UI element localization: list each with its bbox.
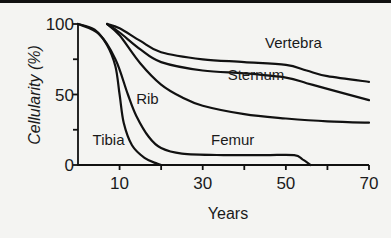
label-vertebra: Vertebra xyxy=(265,34,322,51)
y-tick-label: 0 xyxy=(65,156,74,175)
cellularity-chart: 10305070050100 VertebraSternumRibFemurTi… xyxy=(0,0,391,238)
ticks: 10305070050100 xyxy=(46,15,379,193)
x-axis-title: Years xyxy=(208,205,248,222)
y-tick-label: 100 xyxy=(46,15,74,34)
x-tick-label: 30 xyxy=(193,174,212,193)
x-tick-label: 50 xyxy=(276,174,295,193)
y-axis-title: Cellularity (%) xyxy=(26,45,43,145)
x-tick-label: 70 xyxy=(360,174,379,193)
x-tick-label: 10 xyxy=(110,174,129,193)
label-rib: Rib xyxy=(136,90,159,107)
label-femur: Femur xyxy=(211,131,254,148)
y-tick-label: 50 xyxy=(55,86,74,105)
label-sternum: Sternum xyxy=(228,66,285,83)
label-tibia: Tibia xyxy=(93,131,126,148)
